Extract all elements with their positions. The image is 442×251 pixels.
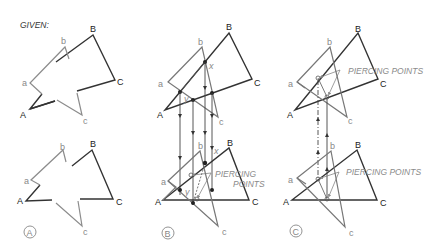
plane-abc: [297, 151, 345, 227]
point-4: [210, 188, 214, 192]
vertex-label-A: A: [157, 110, 163, 120]
point-y: [178, 188, 182, 192]
panel-c: PIERCING POINTS B C A a b c PIERCING POI…: [283, 24, 423, 238]
panel-a-bottom-view: B C A a b c: [17, 139, 123, 237]
piercing-point-1: [189, 173, 193, 177]
panel-c-circle-label: C: [293, 227, 300, 237]
vertex-label-B: B: [226, 22, 232, 32]
plane-abc-light-edges: [30, 47, 69, 94]
panel-b-top-view: B C A a b c x y: [157, 22, 261, 127]
vertex-label-B: B: [90, 139, 96, 149]
line-pierce: [318, 179, 327, 199]
vertex-label-a: a: [22, 78, 27, 88]
leader-2: [198, 173, 211, 197]
panel-a: B C A a b c B C A a b c A: [17, 24, 124, 238]
vertex-label-c: c: [219, 117, 224, 127]
piercing-points-label-line1: PIERCING: [215, 169, 256, 179]
piercing-points-diagram: GIVEN: B C A a b c B C A a b c: [0, 0, 442, 251]
point-x: [203, 161, 207, 165]
panel-c-bottom-view: PIERCING POINTS B C A a b c: [283, 140, 421, 238]
vertex-label-a: a: [288, 79, 293, 89]
vertex-label-C: C: [116, 197, 123, 207]
vertex-label-b: b: [330, 141, 335, 151]
point-label-y: y: [184, 187, 190, 197]
plane-abc-light-c: [56, 201, 82, 226]
point-label-x: x: [208, 61, 214, 71]
vertex-label-c: c: [83, 116, 88, 126]
vertex-label-c: c: [83, 227, 88, 237]
vertex-label-c: c: [348, 116, 353, 126]
vertex-label-A: A: [17, 196, 23, 206]
panel-b: B C A a b c x y: [155, 22, 265, 239]
line-pierce: [318, 78, 327, 97]
plane-abc-light: [31, 150, 66, 185]
plane-abc-lower: [297, 82, 305, 88]
vertex-label-B: B: [90, 24, 96, 34]
piercing-points-label-line2: POINTS: [233, 179, 265, 189]
vertex-label-c: c: [349, 228, 354, 238]
point-label-x: x: [213, 146, 219, 156]
vertex-label-C: C: [254, 78, 261, 88]
vertex-label-A: A: [155, 197, 161, 207]
vertex-label-C: C: [380, 79, 387, 89]
vertex-label-b: b: [61, 36, 66, 46]
plane-abc-dark-lower: [26, 185, 52, 201]
vertex-label-C: C: [380, 198, 387, 208]
vertex-label-C: C: [117, 77, 124, 87]
vertex-label-A: A: [283, 197, 289, 207]
vertex-label-A: A: [20, 110, 26, 120]
vertex-label-B: B: [227, 138, 233, 148]
vertex-label-a: a: [24, 176, 29, 186]
vertex-label-B: B: [355, 140, 361, 150]
vertex-label-a: a: [161, 177, 166, 187]
vertex-label-b: b: [198, 141, 203, 151]
vertex-label-a: a: [288, 175, 293, 185]
plane-abc-light-c: [57, 93, 82, 115]
panel-a-top-view: B C A a b c: [20, 24, 124, 126]
point-3: [191, 201, 195, 205]
plane-abc-dark: [72, 150, 113, 199]
vertex-label-a: a: [158, 79, 163, 89]
vertex-label-A: A: [287, 110, 293, 120]
vertex-label-b: b: [198, 37, 203, 47]
vertex-label-C: C: [252, 197, 259, 207]
panel-b-bottom-view: B C A a b c x y PIERCING POINTS: [155, 138, 265, 237]
panel-c-top-view: PIERCING POINTS B C A a b c: [287, 24, 423, 126]
vertex-label-c: c: [222, 227, 227, 237]
panel-a-circle-label: A: [27, 228, 33, 238]
vertex-label-b: b: [60, 142, 65, 152]
point-label-y: y: [183, 94, 189, 104]
vertex-label-b: b: [327, 37, 332, 47]
given-label: GIVEN:: [20, 20, 49, 30]
piercing-points-label-top: PIERCING POINTS: [348, 66, 423, 76]
panel-b-circle-label: B: [165, 229, 171, 239]
piercing-points-label-bottom: PIERCING POINTS: [346, 167, 421, 177]
vertex-label-B: B: [355, 24, 361, 34]
